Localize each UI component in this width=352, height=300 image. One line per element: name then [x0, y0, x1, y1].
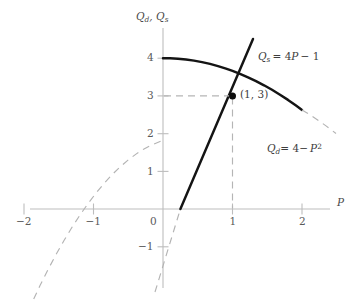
- y-axis-title: Qd, Qs: [136, 11, 168, 23]
- supply-label-q: Q: [258, 50, 267, 62]
- x-axis-title: P: [337, 197, 344, 208]
- equilibrium-point-marker: [229, 92, 236, 99]
- y-tick-label-neg1: −1: [138, 241, 153, 252]
- demand-curve-label: Qd= 4− P2: [267, 143, 322, 155]
- x-tick-label-2: 2: [299, 216, 306, 227]
- x-tick-label-1: 1: [230, 216, 237, 227]
- demand-label-minus: −: [299, 142, 308, 154]
- y-axis-title-q2: Q: [156, 10, 165, 22]
- supply-demand-chart: Qd, Qs P 4 3 2 1 −1 −2 −1 0 1 2 Qs = 4P …: [0, 0, 352, 300]
- x-tick-label-neg1: −1: [86, 216, 101, 227]
- supply-curve-dashed: [155, 209, 180, 292]
- supply-label-p: P: [291, 50, 298, 62]
- y-axis-title-q1: Q: [136, 10, 145, 22]
- y-tick-label-3: 3: [147, 90, 154, 101]
- demand-label-q: Q: [267, 142, 276, 154]
- supply-label-sub: s: [267, 55, 271, 64]
- axes-group: [30, 28, 330, 288]
- equilibrium-point-label: (1, 3): [240, 89, 268, 100]
- y-tick-label-1: 1: [147, 166, 154, 177]
- x-tick-label-neg2: −2: [16, 216, 31, 227]
- y-tick-label-2: 2: [147, 128, 154, 139]
- supply-label-eq: = 4: [273, 50, 292, 62]
- demand-label-exponent: 2: [317, 142, 322, 151]
- demand-curve-dashed-right: [302, 110, 336, 134]
- y-axis-title-sub-s: s: [165, 15, 169, 24]
- supply-label-tail: − 1: [301, 50, 320, 62]
- supply-curve-label: Qs = 4P − 1: [258, 51, 319, 63]
- y-tick-label-4: 4: [147, 52, 154, 63]
- x-tick-label-0: 0: [150, 216, 157, 227]
- demand-label-eq: = 4: [280, 142, 299, 154]
